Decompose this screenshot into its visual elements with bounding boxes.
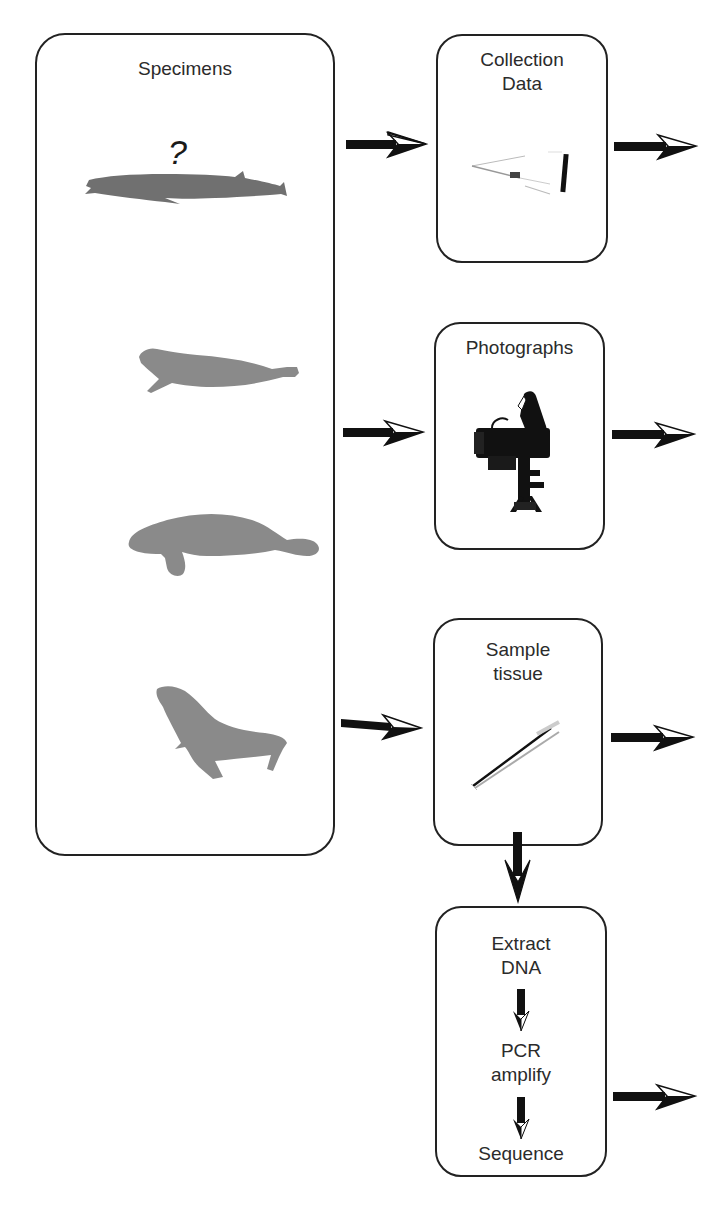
beaked-whale-silhouette-icon	[85, 168, 290, 210]
photographs-title: Photographs	[436, 336, 603, 360]
arrow-collection-out	[614, 133, 698, 161]
arrow-specimens-to-photographs	[343, 419, 425, 447]
specimens-title: Specimens	[37, 57, 333, 81]
sample-tissue-box: Sample tissue	[433, 618, 603, 846]
manatee-silhouette-icon	[127, 510, 322, 580]
collection-data-title: Collection Data	[438, 48, 606, 96]
step-sequence: Sequence	[437, 1142, 605, 1166]
collection-tools-icon	[470, 126, 580, 196]
arrow-specimens-to-collection	[346, 131, 428, 159]
step-extract-dna: Extract DNA	[437, 932, 605, 980]
dna-processing-box: Extract DNA PCR amplify Sequence	[435, 906, 607, 1177]
specimens-box: Specimens ?	[35, 33, 335, 856]
arrow-sample-to-dna	[504, 832, 532, 904]
unknown-species-marker: ?	[168, 135, 187, 169]
seal-silhouette-icon	[137, 345, 302, 395]
sea-lion-silhouette-icon	[155, 685, 295, 785]
arrow-extract-to-pcr	[512, 989, 530, 1031]
arrow-dna-out	[613, 1083, 697, 1111]
photographs-box: Photographs	[434, 322, 605, 550]
arrow-pcr-to-sequence	[512, 1097, 530, 1139]
forceps-icon	[467, 712, 567, 792]
arrow-photographs-out	[612, 421, 696, 449]
step-pcr-amplify: PCR amplify	[437, 1039, 605, 1087]
camera-on-tripod-icon	[474, 386, 574, 516]
sample-tissue-title: Sample tissue	[435, 638, 601, 686]
arrow-specimens-to-sample	[341, 711, 423, 741]
collection-data-box: Collection Data	[436, 34, 608, 263]
arrow-sample-out	[611, 724, 695, 752]
